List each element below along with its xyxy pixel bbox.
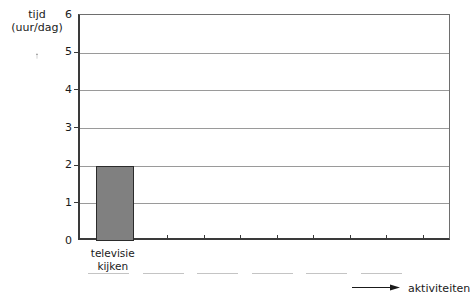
y-tick-mark bbox=[74, 89, 79, 90]
gridline bbox=[80, 166, 449, 167]
y-tick-label: 4 bbox=[52, 84, 72, 95]
y-tick-mark bbox=[74, 165, 79, 166]
gridline bbox=[80, 53, 449, 54]
gridline bbox=[80, 128, 449, 129]
y-axis-title-line-2: (uur/dag) bbox=[4, 21, 70, 34]
right-arrow-icon bbox=[352, 282, 400, 293]
plot-area bbox=[78, 14, 450, 240]
bar bbox=[96, 166, 134, 241]
category-label-line-2: kijken bbox=[80, 260, 146, 273]
y-tick-label: 3 bbox=[52, 122, 72, 133]
gridline bbox=[80, 203, 449, 204]
x-tick-mark bbox=[277, 235, 278, 240]
y-tick-label: 6 bbox=[52, 9, 72, 20]
y-tick-mark bbox=[74, 127, 79, 128]
x-tick-mark bbox=[386, 235, 387, 240]
y-tick-label: 1 bbox=[52, 197, 72, 208]
x-tick-mark bbox=[423, 235, 424, 240]
blank-answer-line[interactable] bbox=[88, 273, 129, 274]
x-tick-mark bbox=[313, 235, 314, 240]
blank-answer-line[interactable] bbox=[361, 273, 402, 274]
category-label-line-1: televisie bbox=[80, 247, 146, 260]
x-tick-mark bbox=[167, 235, 168, 240]
blank-answer-line[interactable] bbox=[306, 273, 347, 274]
category-label: televisiekijken bbox=[80, 247, 146, 272]
y-tick-label: 0 bbox=[52, 235, 72, 246]
y-tick-label: 2 bbox=[52, 159, 72, 170]
blank-answer-line[interactable] bbox=[252, 273, 293, 274]
x-tick-mark bbox=[350, 235, 351, 240]
gridline bbox=[80, 90, 449, 91]
blank-answer-line[interactable] bbox=[197, 273, 238, 274]
y-tick-mark bbox=[74, 202, 79, 203]
y-tick-label: 5 bbox=[52, 46, 72, 57]
x-tick-mark bbox=[204, 235, 205, 240]
y-tick-mark bbox=[74, 52, 79, 53]
up-arrow-icon bbox=[36, 40, 38, 72]
x-axis-title: aktiviteiten bbox=[408, 283, 470, 294]
bar-chart: tijd (uur/dag) aktiviteiten 0123456telev… bbox=[0, 0, 471, 308]
x-tick-mark bbox=[240, 235, 241, 240]
blank-answer-line[interactable] bbox=[143, 273, 184, 274]
